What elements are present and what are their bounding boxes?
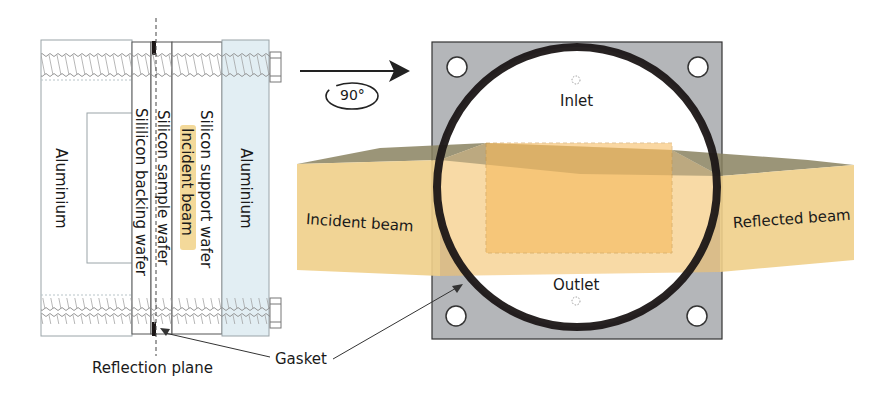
label-silicon-support-wafer: Silicon support wafer [198,110,213,268]
label-outlet: Outlet [553,276,599,294]
label-inlet: Inlet [560,92,593,110]
label-silicon-backing-wafer: Sililicon backing wafer [133,108,148,276]
bolt-hole-bl [446,306,466,326]
label-aluminium-right: Aluminium [238,148,253,229]
label-silicon-sample-wafer: Silicon sample wafer [155,110,170,265]
bolt-hole-tl [447,57,467,77]
bolt-hole-br [687,306,707,326]
label-aluminium-left: Aluminium [53,148,68,229]
reflection-footprint [486,143,672,253]
nut-top [270,52,281,82]
label-reflection-plane: Reflection plane [92,359,213,377]
label-rotation-90: 90° [340,87,365,103]
gasket-bottom [152,322,156,336]
label-incident-beam-side: Incident beam [179,128,194,236]
label-gasket: Gasket [275,350,327,368]
bolt-hole-tr [688,57,708,77]
nut-bottom [270,298,281,328]
beams [297,143,854,276]
